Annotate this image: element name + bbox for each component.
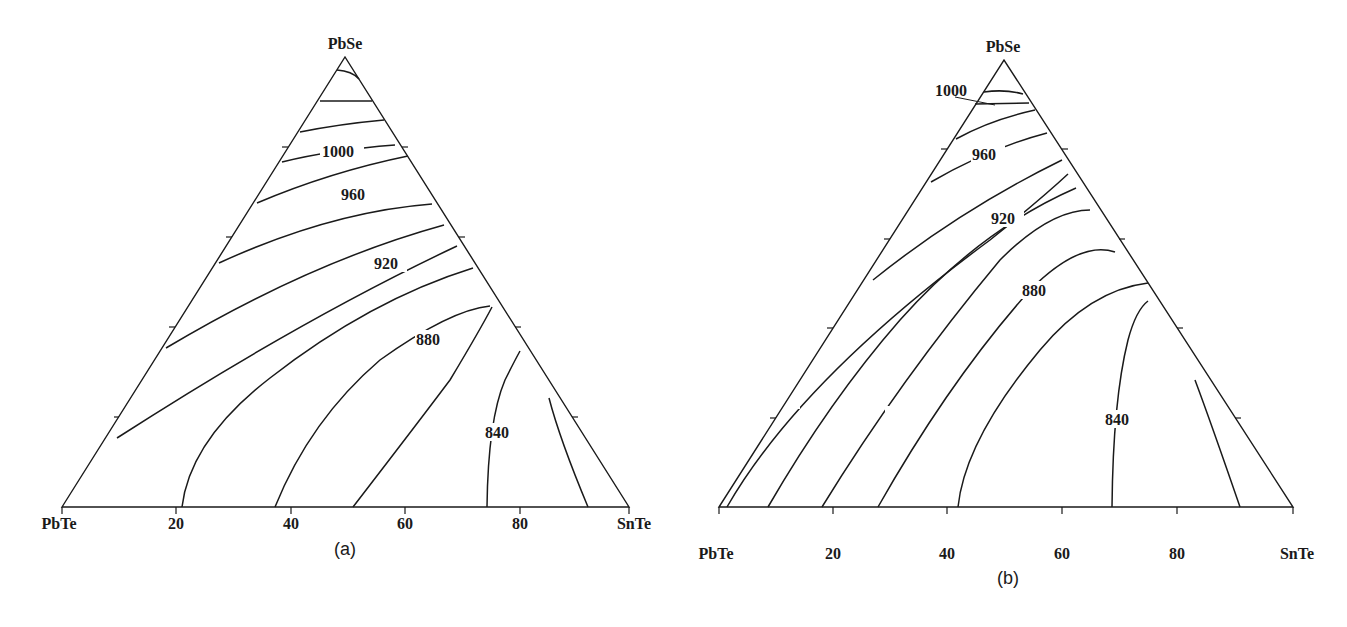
tick-label-60-b: 60 — [1054, 545, 1070, 562]
tick-label-80-a: 80 — [512, 515, 528, 532]
contour-label-1000-a: 1000 — [322, 143, 354, 160]
contour-label-920-a: 920 — [374, 255, 398, 272]
contour-label-1000-b: 1000 — [935, 82, 967, 99]
tick-label-20-a: 20 — [168, 515, 184, 532]
vertex-label-pbse-a: PbSe — [328, 35, 363, 52]
contour-label-840-b: 840 — [1105, 411, 1129, 428]
caption-a: (a) — [334, 539, 356, 559]
left-ticks-a — [114, 147, 288, 417]
contour-label-840-a: 840 — [485, 424, 509, 441]
left-ticks-b — [770, 149, 947, 418]
contour-label-960-a: 960 — [341, 186, 365, 203]
triangle-frame-b — [719, 60, 1293, 507]
tick-label-40-a: 40 — [283, 515, 299, 532]
right-ticks-a — [402, 147, 578, 417]
line-gaps-b — [792, 403, 961, 412]
tick-label-80-b: 80 — [1169, 545, 1185, 562]
ternary-diagram-b: 1000 960 920 880 840 PbSe PbTe SnTe 20 4… — [699, 38, 1315, 588]
right-ticks-b — [1062, 149, 1241, 418]
vertex-label-pbte-b: PbTe — [699, 545, 734, 562]
figure-canvas: 1000 960 920 880 840 PbSe PbTe SnTe 20 4… — [0, 0, 1347, 627]
contour-label-960-b: 960 — [972, 146, 996, 163]
vertex-label-snte-a: SnTe — [617, 515, 651, 532]
bottom-ticks-a — [62, 507, 629, 514]
ternary-diagram-a: 1000 960 920 880 840 PbSe PbTe SnTe 20 4… — [42, 35, 652, 559]
tick-label-60-a: 60 — [397, 515, 413, 532]
contour-labels-a: 1000 960 920 880 840 — [320, 142, 518, 441]
contour-label-880-b: 880 — [1022, 282, 1046, 299]
contour-label-880-a: 880 — [416, 331, 440, 348]
vertex-label-snte-b: SnTe — [1280, 545, 1314, 562]
bottom-ticks-b — [719, 507, 1293, 514]
tick-label-20-b: 20 — [825, 545, 841, 562]
caption-b: (b) — [997, 568, 1019, 588]
tick-label-40-b: 40 — [939, 545, 955, 562]
vertex-label-pbse-b: PbSe — [986, 38, 1021, 55]
vertex-label-pbte-a: PbTe — [42, 515, 77, 532]
contour-label-920-b: 920 — [991, 210, 1015, 227]
isotherms-a — [117, 70, 588, 507]
